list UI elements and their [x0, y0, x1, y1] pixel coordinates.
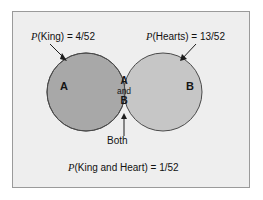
circle-set-b	[124, 53, 202, 131]
both-annotation: Both	[107, 136, 128, 146]
caption-p-text: (King and Heart) = 1/52	[74, 162, 178, 173]
hearts-leader-arrow	[180, 44, 196, 61]
intersection-label: A and B	[113, 76, 135, 107]
set-b-letter: B	[186, 81, 194, 92]
king-leader-arrow	[50, 44, 67, 61]
label-p-king-text: (King) = 4/52	[37, 31, 95, 42]
caption-p-king-and-heart: P(King and Heart) = 1/52	[68, 163, 179, 174]
both-leader-arrow	[121, 113, 127, 136]
label-p-king: P(King) = 4/52	[31, 32, 95, 43]
intersection-label-line3: B	[113, 96, 135, 107]
set-a-letter: A	[60, 81, 68, 92]
label-p-hearts-text: (Hearts) = 13/52	[152, 31, 225, 42]
venn-diagram-screenshot: P(King) = 4/52 P(Hearts) = 13/52 A B A a…	[0, 0, 263, 200]
label-p-hearts: P(Hearts) = 13/52	[146, 32, 225, 43]
